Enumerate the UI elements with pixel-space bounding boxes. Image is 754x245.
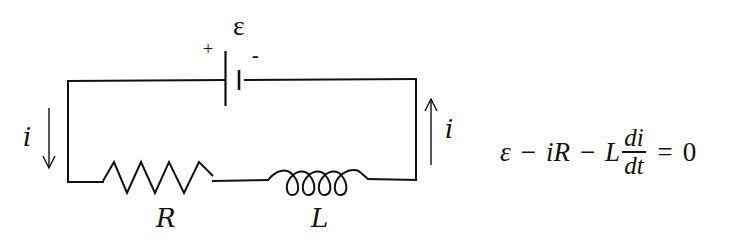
rl-circuit-diagram: ε + - R L i i ε − iR − L di dt = 0	[0, 0, 754, 245]
inductor-label: L	[311, 205, 328, 231]
equation-equals: =	[658, 137, 673, 168]
equation-rhs: 0	[683, 137, 697, 168]
current-arrow-down-icon	[43, 108, 55, 168]
kirchhoff-equation: ε − iR − L di dt = 0	[500, 112, 696, 192]
equation-inductance: L	[605, 137, 620, 168]
derivative-denominator: dt	[622, 153, 645, 179]
wire-top-left	[68, 80, 225, 81]
inductor-icon	[268, 170, 368, 195]
equation-emf: ε	[500, 137, 511, 168]
current-arrow-up-icon	[425, 99, 437, 165]
derivative-numerator: di	[622, 125, 645, 151]
battery-positive-label: +	[203, 40, 213, 58]
battery-negative-label: -	[252, 45, 259, 65]
resistor-label: R	[156, 205, 176, 231]
wire-bottom-right	[368, 179, 416, 180]
equation-minus-2: −	[580, 137, 595, 168]
equation-minus-1: −	[521, 137, 536, 168]
wire-top-right	[245, 79, 416, 80]
wire-bottom-middle	[213, 180, 268, 181]
current-left-label: i	[23, 124, 31, 150]
current-right-label: i	[445, 116, 453, 142]
emf-label: ε	[233, 12, 245, 40]
battery-icon	[226, 51, 240, 106]
equation-ir-term: iR	[546, 137, 570, 168]
equation-derivative: di dt	[622, 125, 645, 179]
resistor-icon	[103, 162, 213, 193]
